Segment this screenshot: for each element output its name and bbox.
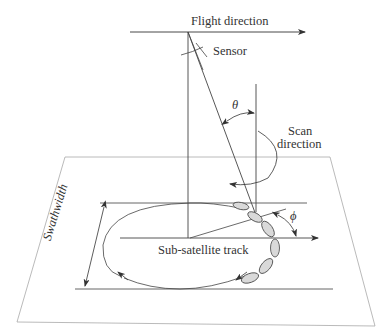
scan-ellipse-path-lower — [124, 276, 245, 289]
scan-direction-label-line2: direction — [277, 137, 321, 151]
scan-direction-arrow — [230, 131, 277, 185]
scan-ellipse-path — [103, 203, 245, 276]
scan-beam-line — [188, 32, 257, 218]
sensor-cross — [196, 43, 207, 57]
sub-satellite-track-label: Sub-satellite track — [158, 243, 249, 257]
swathwidth-arrow — [85, 207, 104, 286]
sensor-tick — [188, 32, 203, 70]
theta-label: θ — [232, 98, 238, 112]
theta-angle-arc — [227, 113, 254, 121]
scan-geometry-diagram — [0, 0, 391, 334]
scan-direction-label-line1: Scan — [288, 124, 312, 138]
sensor-label: Sensor — [213, 44, 247, 58]
phi-label: ϕ — [290, 209, 296, 223]
flight-direction-label: Flight direction — [191, 14, 268, 28]
ground-plane — [17, 157, 375, 326]
